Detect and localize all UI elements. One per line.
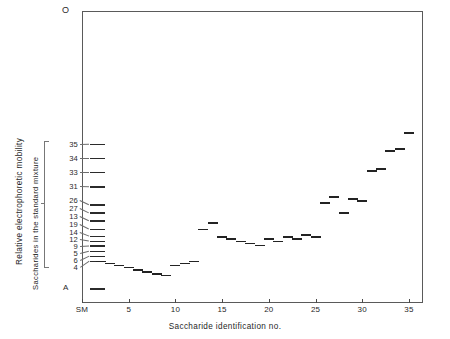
x-tick-label: 5	[126, 305, 131, 314]
standard-band-leader-line	[80, 186, 89, 187]
x-tick-label: 30	[358, 305, 367, 314]
standard-mixture-bracket	[44, 141, 49, 268]
sample-band	[273, 241, 283, 243]
sample-band	[311, 236, 321, 238]
standard-band-leader-line	[80, 158, 89, 159]
x-tick-label: 15	[217, 305, 226, 314]
sample-band	[367, 170, 377, 172]
standard-band	[90, 251, 105, 253]
standard-band-label: 4	[64, 263, 78, 272]
x-tick-label: 10	[171, 305, 180, 314]
x-tick	[409, 299, 410, 303]
standard-band	[90, 256, 105, 258]
sample-band	[255, 245, 265, 247]
sample-band	[339, 212, 349, 214]
sample-band	[198, 229, 208, 231]
sample-band	[208, 222, 218, 224]
sample-band	[170, 265, 180, 267]
sample-band	[161, 275, 171, 277]
standard-band	[90, 220, 105, 222]
x-tick	[175, 299, 176, 303]
standard-band-label: 33	[64, 168, 78, 177]
standard-band	[90, 172, 105, 174]
sample-band	[189, 261, 199, 263]
y-axis-label-mobility: Relative electrophoretic mobility	[15, 138, 24, 265]
plot-frame	[82, 11, 423, 303]
anode-band	[90, 288, 105, 290]
x-tick-label: 35	[404, 305, 413, 314]
sample-band	[357, 200, 367, 202]
sample-band	[376, 168, 386, 170]
x-tick-label: 20	[264, 305, 273, 314]
standard-band	[90, 229, 105, 231]
x-tick	[222, 299, 223, 303]
standard-band-label: 34	[64, 154, 78, 163]
standard-band	[90, 144, 105, 146]
standard-band	[90, 245, 105, 247]
origin-label: O	[62, 5, 69, 15]
x-tick	[269, 299, 270, 303]
x-tick	[316, 299, 317, 303]
x-tick	[362, 299, 363, 303]
standard-band	[90, 158, 105, 160]
x-axis-label: Saccharide identification no.	[0, 322, 450, 331]
standard-band	[90, 241, 105, 243]
anode-label: A	[63, 283, 68, 292]
x-tick	[82, 299, 83, 303]
x-tick	[129, 299, 130, 303]
standard-band	[90, 212, 105, 214]
sample-band	[180, 263, 190, 265]
standard-mixture-bracket-tick	[41, 203, 45, 204]
y-axis-label-standard-mixture: Saccharides in the standard mixture	[31, 157, 40, 290]
standard-band-label: 35	[64, 140, 78, 149]
standard-band	[90, 236, 105, 238]
standard-band	[90, 186, 105, 188]
sample-band	[320, 202, 330, 204]
sample-band	[395, 148, 405, 150]
standard-band-leader-line	[80, 144, 89, 145]
sample-band	[292, 238, 302, 240]
standard-band-leader-line	[80, 172, 89, 173]
sample-band	[329, 196, 339, 198]
sample-band	[385, 150, 395, 152]
standard-band-label: 31	[64, 182, 78, 191]
x-tick-label: SM	[76, 305, 88, 314]
sample-band	[404, 132, 414, 134]
x-tick-label: 25	[311, 305, 320, 314]
figure-canvas: O Relative electrophoretic mobility Sacc…	[0, 0, 450, 339]
standard-band	[90, 204, 105, 206]
